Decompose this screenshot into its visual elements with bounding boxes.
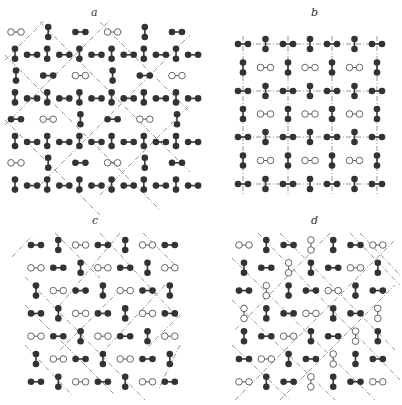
filled-dimer	[325, 265, 342, 272]
filled-dimer	[100, 282, 107, 299]
filled-dimer	[236, 287, 253, 294]
filled-dimer	[375, 328, 382, 345]
dimer-lattice-figure: a b c d	[0, 0, 402, 405]
open-dimer	[72, 72, 89, 79]
filled-dimer	[285, 59, 292, 76]
open-dimer	[308, 374, 315, 391]
filled-dimer	[95, 242, 112, 249]
filled-dimer	[56, 139, 73, 146]
filled-dimer	[185, 95, 202, 102]
filled-dimer	[88, 95, 105, 102]
filled-dimer	[109, 67, 116, 84]
filled-dimer	[108, 176, 115, 193]
filled-dimer	[12, 176, 19, 193]
filled-dimer	[76, 89, 83, 106]
filled-dimer	[162, 242, 179, 249]
filled-dimer	[55, 237, 62, 254]
filled-dimer	[374, 106, 381, 123]
filled-dimer	[44, 89, 51, 106]
filled-dimer	[55, 374, 62, 391]
open-dimer	[303, 310, 320, 317]
filled-dimer	[303, 356, 320, 363]
panel-a: a	[5, 6, 201, 215]
filled-dimer	[374, 152, 381, 169]
filled-dimer	[240, 106, 247, 123]
filled-dimer	[329, 106, 336, 123]
open-dimer	[137, 116, 154, 123]
open-dimer	[72, 379, 89, 386]
filled-dimer	[12, 133, 19, 150]
filled-dimer	[236, 356, 253, 363]
dashed-line	[55, 233, 100, 278]
filled-dimer	[185, 139, 202, 146]
dashed-line	[360, 233, 400, 275]
filled-dimer	[108, 89, 115, 106]
open-dimer	[302, 111, 319, 118]
filled-dimer	[117, 333, 134, 340]
dashed-line	[235, 240, 395, 400]
filled-dimer	[285, 351, 292, 368]
filled-dimer	[28, 242, 45, 249]
dashed-line	[60, 295, 115, 350]
filled-dimer	[329, 152, 336, 169]
filled-dimer	[173, 176, 180, 193]
filled-dimer	[120, 182, 137, 189]
filled-dimer	[241, 328, 248, 345]
filled-dimer	[95, 379, 112, 386]
open-dimer	[236, 242, 253, 249]
filled-dimer	[56, 52, 73, 59]
filled-dimer	[33, 351, 40, 368]
filled-dimer	[169, 160, 186, 167]
open-dimer	[346, 64, 363, 71]
filled-dimer	[173, 89, 180, 106]
open-dimer	[50, 287, 67, 294]
filled-dimer	[325, 333, 342, 340]
open-dimer	[28, 265, 45, 272]
panel-a-label: a	[91, 6, 98, 19]
open-dimer	[95, 265, 112, 272]
filled-dimer	[8, 116, 25, 123]
filled-dimer	[88, 182, 105, 189]
open-dimer	[162, 265, 179, 272]
open-dimer	[117, 356, 134, 363]
filled-dimer	[40, 72, 57, 79]
filled-dimer	[375, 260, 382, 277]
filled-dimer	[263, 305, 270, 322]
filled-dimer	[12, 89, 19, 106]
open-dimer	[117, 287, 134, 294]
open-dimer	[169, 72, 186, 79]
filled-dimer	[173, 133, 180, 150]
filled-dimer	[72, 287, 89, 294]
filled-dimer	[303, 287, 320, 294]
filled-dimer	[137, 72, 154, 79]
open-dimer	[325, 287, 342, 294]
open-dimer	[330, 351, 337, 368]
filled-dimer	[122, 374, 129, 391]
panel-b-dimers	[235, 36, 386, 193]
open-dimer	[139, 310, 156, 317]
open-dimer	[257, 111, 274, 118]
filled-dimer	[173, 46, 180, 63]
open-dimer	[302, 64, 319, 71]
filled-dimer	[153, 139, 170, 146]
filled-dimer	[139, 356, 156, 363]
filled-dimer	[141, 89, 148, 106]
open-dimer	[285, 260, 292, 277]
filled-dimer	[285, 282, 292, 299]
open-dimer	[347, 265, 364, 272]
open-dimer	[139, 242, 156, 249]
panel-d-label: d	[311, 214, 318, 227]
filled-dimer	[45, 155, 52, 172]
open-dimer	[162, 333, 179, 340]
filled-dimer	[12, 46, 19, 63]
filled-dimer	[347, 310, 364, 317]
open-dimer	[50, 356, 67, 363]
filled-dimer	[72, 29, 89, 36]
filled-dimer	[120, 139, 137, 146]
open-dimer	[8, 29, 25, 36]
open-dimer	[139, 379, 156, 386]
filled-dimer	[76, 133, 83, 150]
filled-dimer	[169, 29, 186, 36]
open-dimer	[258, 356, 275, 363]
filled-dimer	[240, 59, 247, 76]
